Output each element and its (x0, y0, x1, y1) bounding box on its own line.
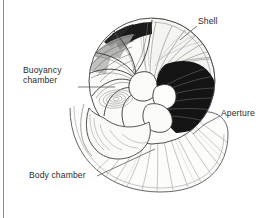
label-aperture: Aperture (221, 108, 255, 118)
label-buoyancy-line1: Buoyancy (23, 65, 62, 75)
label-buoyancy-line2: chamber (23, 75, 62, 85)
figure-canvas: Shell Buoyancy chamber Aperture Body cha… (0, 0, 279, 218)
label-shell: Shell (198, 16, 218, 26)
label-buoyancy-chamber: Buoyancy chamber (23, 65, 62, 86)
label-body-chamber: Body chamber (29, 170, 86, 180)
